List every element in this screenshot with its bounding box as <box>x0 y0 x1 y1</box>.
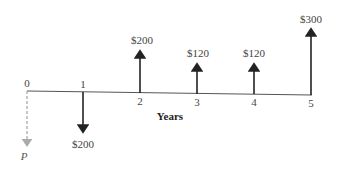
unknown-p-label: P <box>21 150 28 162</box>
period-label-3: 3 <box>194 96 200 108</box>
period-label-4: 4 <box>251 96 257 108</box>
amount-label-4: $120 <box>243 47 265 59</box>
period-label-5: 5 <box>308 97 314 109</box>
cash-flow-diagram <box>0 0 337 176</box>
amount-label-3: $120 <box>187 47 209 59</box>
period-label-1: 1 <box>80 78 86 90</box>
amount-label-5: $300 <box>300 13 322 25</box>
amount-label-1: $200 <box>72 138 94 150</box>
period-label-2: 2 <box>137 95 143 107</box>
period-label-0: 0 <box>24 77 30 89</box>
time-axis <box>27 91 312 95</box>
amount-label-2: $200 <box>131 34 153 46</box>
axis-title: Years <box>157 110 183 122</box>
